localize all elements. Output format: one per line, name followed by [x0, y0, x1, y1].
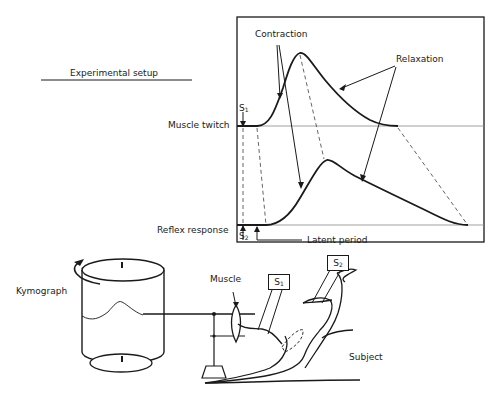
muscle-twitch-label: Muscle twitch	[168, 121, 230, 130]
stimulator-s1-box: S1	[268, 274, 290, 290]
reflex-response-label: Reflex response	[157, 226, 229, 235]
kymograph-drum	[82, 259, 164, 363]
relaxation-arrows	[342, 66, 396, 178]
muscle-label: Muscle	[210, 275, 241, 284]
latent-period-label: Latent period	[307, 236, 367, 245]
reflex-response-curve	[237, 160, 468, 225]
title-label: Experimental setup	[70, 69, 158, 78]
s1-leads	[258, 290, 282, 334]
kymograph-label: Kymograph	[16, 287, 67, 296]
graph-frame	[237, 17, 484, 242]
contraction-label: Contraction	[255, 30, 307, 39]
contraction-arrows	[277, 45, 301, 186]
latent-arrow-icon	[254, 226, 260, 232]
s2-marker-label: S2	[239, 232, 249, 241]
stimulator-s2-box: S2	[327, 255, 349, 271]
subject-label: Subject	[349, 353, 383, 362]
muscle-twitch-curve	[237, 53, 398, 126]
nerve-region	[282, 330, 303, 352]
relaxation-label: Relaxation	[396, 55, 443, 64]
weight	[202, 366, 226, 378]
correspondence-lines	[243, 55, 467, 225]
s1-marker-label: S1	[239, 104, 249, 113]
